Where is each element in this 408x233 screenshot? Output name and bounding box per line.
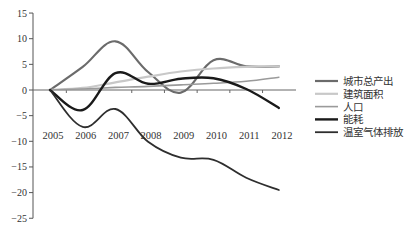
legend-item: 温室气体排放	[315, 126, 404, 138]
legend-label: 人口	[343, 102, 363, 113]
y-tick-label: 5	[22, 59, 27, 70]
y-tick-label: 0	[22, 85, 27, 96]
legend-label: 能耗	[343, 113, 364, 125]
y-axis: 151050−5−10−15−20−25	[11, 8, 33, 224]
y-tick-label: 15	[17, 8, 27, 19]
x-tick-label: 2008	[141, 130, 162, 141]
legend-item: 能耗	[315, 113, 364, 125]
x-tick-label: 2011	[239, 130, 260, 141]
x-axis: 20052006200720082009201020112012	[33, 90, 296, 141]
x-tick-label: 2010	[206, 130, 227, 141]
x-tick-label: 2007	[108, 130, 129, 141]
x-tick-label: 2009	[173, 130, 194, 141]
y-tick-label: −15	[11, 161, 27, 172]
y-tick-label: −10	[11, 136, 27, 147]
x-tick-label: 2012	[271, 130, 292, 141]
line-chart: 151050−5−10−15−20−25 2005200620072008200…	[0, 0, 408, 233]
legend-item: 人口	[315, 102, 363, 113]
y-tick-label: 10	[17, 33, 27, 44]
y-tick-label: −5	[16, 110, 27, 121]
plot-area	[50, 41, 279, 190]
y-tick-label: −20	[11, 187, 27, 198]
legend-label: 城市总产出	[343, 75, 393, 87]
x-tick-label: 2006	[75, 130, 96, 141]
legend-item: 建筑面积	[315, 88, 384, 100]
legend-item: 城市总产出	[315, 75, 393, 87]
legend-label: 建筑面积	[343, 88, 384, 100]
y-tick-label: −25	[11, 213, 27, 224]
legend-label: 温室气体排放	[343, 126, 404, 138]
legend: 城市总产出建筑面积人口能耗温室气体排放	[315, 75, 404, 138]
x-tick-label: 2005	[43, 130, 64, 141]
